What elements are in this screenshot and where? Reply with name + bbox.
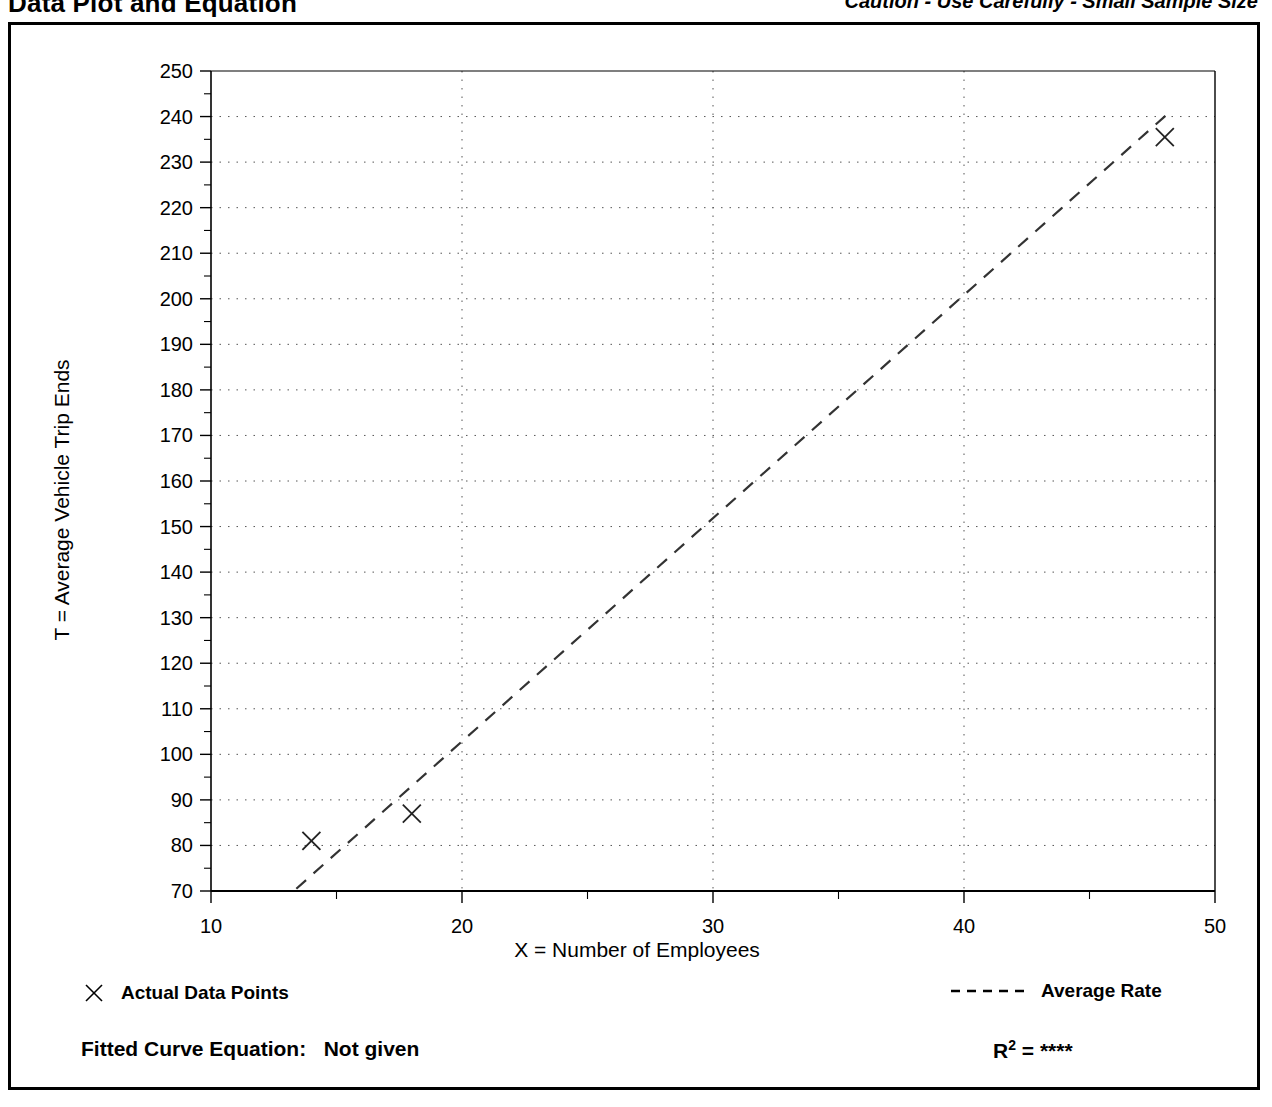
y-tick-label: 130 <box>160 607 193 629</box>
x-tick-label: 10 <box>200 915 222 937</box>
data-point-marker <box>403 805 421 823</box>
legend-item-actual-data-points: Actual Data Points <box>81 980 289 1006</box>
chart-legend: Actual Data Points Average Rate <box>11 980 1263 1020</box>
legend-label-average-rate: Average Rate <box>1041 980 1162 1002</box>
y-tick-label: 200 <box>160 288 193 310</box>
data-point-marker <box>1156 128 1174 146</box>
x-tick-labels: 1020304050 <box>200 915 1226 937</box>
r-squared-exponent: 2 <box>1008 1037 1016 1053</box>
x-tick-label: 50 <box>1204 915 1226 937</box>
page-title: Data Plot and Equation <box>8 0 297 19</box>
equation-row: Fitted Curve Equation: Not given R2 = **… <box>11 1037 1263 1081</box>
y-tick-label: 80 <box>171 834 193 856</box>
fitted-curve-equation-label: Fitted Curve Equation: <box>81 1037 306 1060</box>
data-point-marker <box>302 832 320 850</box>
caution-note: Caution - Use Carefully - Small Sample S… <box>845 0 1258 13</box>
dashed-line-icon <box>949 983 1027 999</box>
x-tick-label: 20 <box>451 915 473 937</box>
y-tick-label: 110 <box>161 698 193 720</box>
average-rate-trendline <box>296 110 1172 889</box>
plot-region: 7080901001101201301401501601701801902002… <box>11 25 1263 1093</box>
data-points-layer <box>302 128 1173 850</box>
y-tick-label: 120 <box>160 652 193 674</box>
r-squared-number: **** <box>1040 1039 1073 1062</box>
y-tick-label: 210 <box>160 242 193 264</box>
y-tick-label: 100 <box>160 743 193 765</box>
y-tick-label: 190 <box>160 333 193 355</box>
r-squared-value: R2 = **** <box>993 1037 1073 1063</box>
y-tick-label: 240 <box>160 106 193 128</box>
legend-item-average-rate: Average Rate <box>949 980 1162 1002</box>
x-tick-label: 30 <box>702 915 724 937</box>
ticks-layer <box>200 71 1215 903</box>
y-tick-label: 250 <box>160 60 193 82</box>
y-tick-labels: 7080901001101201301401501601701801902002… <box>160 60 193 902</box>
fitted-curve-equation-value: Not given <box>324 1037 420 1060</box>
scatter-plot-svg: 7080901001101201301401501601701801902002… <box>11 25 1263 1093</box>
y-tick-label: 180 <box>160 379 193 401</box>
x-axis-title: X = Number of Employees <box>11 938 1263 962</box>
y-tick-label: 70 <box>171 880 193 902</box>
r-squared-label: R <box>993 1039 1008 1062</box>
legend-label-actual-data-points: Actual Data Points <box>121 982 289 1004</box>
y-tick-label: 160 <box>160 470 193 492</box>
x-tick-label: 40 <box>953 915 975 937</box>
y-tick-label: 230 <box>160 151 193 173</box>
average-rate-line <box>296 110 1172 889</box>
y-tick-label: 140 <box>160 561 193 583</box>
fitted-curve-equation: Fitted Curve Equation: Not given <box>81 1037 419 1061</box>
r-squared-equals: = <box>1022 1039 1034 1062</box>
grid-layer <box>211 71 1215 891</box>
y-tick-label: 150 <box>160 516 193 538</box>
chart-card: 7080901001101201301401501601701801902002… <box>8 22 1260 1090</box>
y-tick-label: 170 <box>160 424 193 446</box>
y-axis-title: T = Average Vehicle Trip Ends <box>50 150 74 850</box>
y-tick-label: 220 <box>160 197 193 219</box>
page-header: Data Plot and Equation Caution - Use Car… <box>0 0 1272 22</box>
x-marker-icon <box>81 980 107 1006</box>
y-tick-label: 90 <box>171 789 193 811</box>
